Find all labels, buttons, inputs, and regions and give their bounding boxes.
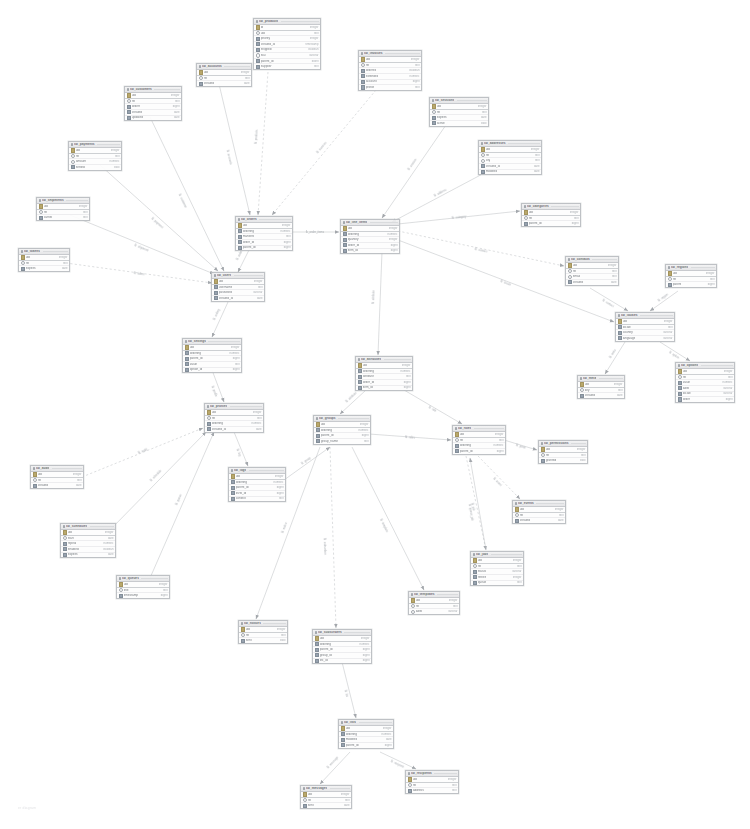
relationship-line[interactable] — [378, 252, 382, 355]
relationship-line[interactable] — [330, 447, 336, 628]
foreign-key-row[interactable]: sentdate — [301, 803, 351, 808]
foreign-key-row[interactable]: group_nametext — [314, 439, 370, 444]
relationship-line[interactable] — [392, 170, 490, 222]
foreign-key-row[interactable]: sentbool — [239, 638, 287, 643]
foreign-key-row[interactable]: createddate — [566, 280, 618, 285]
relationship-line[interactable] — [100, 165, 218, 271]
foreign-key-row[interactable]: createddate — [513, 518, 565, 523]
relationship-line[interactable] — [650, 291, 678, 311]
foreign-key-row[interactable]: parent_idbigint — [236, 246, 292, 251]
relationship-line[interactable] — [398, 231, 564, 266]
relationship-line[interactable] — [340, 390, 366, 414]
foreign-key-row[interactable]: list_idbigint — [313, 659, 371, 664]
relationship-line[interactable] — [342, 662, 356, 718]
foreign-key-row[interactable]: createddate — [31, 483, 83, 488]
entity-table[interactable]: tbl_localesuidintegerlocaletextcountryva… — [615, 312, 675, 342]
relationship-line[interactable] — [272, 90, 376, 215]
relationship-line[interactable] — [258, 72, 268, 215]
entity-table[interactable]: tbl_paymentsuidintegerreftextamountnumer… — [68, 141, 122, 171]
relationship-line[interactable] — [212, 302, 228, 337]
entity-table[interactable]: tbl_shipmentsuidintegerreftextcarriertex… — [36, 197, 90, 221]
entity-table[interactable]: tbl_groupsuidintegerorderingnumericparen… — [313, 415, 371, 445]
foreign-key-row[interactable]: parent_idbigint — [522, 221, 580, 226]
entity-table[interactable]: tbl_rolesuidintegerreftextorderingnumeri… — [452, 425, 506, 455]
relationship-line[interactable] — [238, 248, 250, 272]
relationship-line[interactable] — [466, 456, 486, 550]
entity-table[interactable]: tbl_optionsuidintegerreftextvaluenumeric… — [675, 362, 735, 403]
entity-table[interactable]: tbl_accountsuidintegerreftextcreateddate — [196, 63, 252, 87]
foreign-key-row[interactable]: settledbool — [69, 165, 121, 170]
relationship-line[interactable] — [110, 432, 206, 530]
entity-table[interactable]: tbl_invoicesuidintegerreftextorderedbool… — [358, 50, 422, 91]
foreign-key-row[interactable]: item_idbigint — [356, 386, 412, 391]
entity-table[interactable]: tbl_audituidintegerreftextcreateddate — [30, 465, 84, 489]
foreign-key-row[interactable]: created_atdate — [212, 296, 264, 301]
foreign-key-row[interactable]: createddate — [197, 81, 251, 86]
entity-table[interactable]: tbl_messagesuidintegerreftextsentdate — [300, 785, 352, 809]
foreign-key-row[interactable]: option_idbigint — [183, 368, 241, 373]
entity-table[interactable]: tbl_categoriesuidintegerreftextparent_id… — [521, 203, 581, 227]
relationship-line[interactable] — [70, 215, 214, 274]
relationship-line[interactable] — [404, 390, 462, 424]
entity-table[interactable]: tbl_ordersuidintegerorderingnumericmanif… — [235, 216, 293, 251]
entity-table[interactable]: tbl_recipientsuidintegerreftextaddresste… — [405, 770, 459, 794]
foreign-key-row[interactable]: updateddate — [125, 116, 181, 121]
entity-table[interactable]: tbl_templatesuidintegerreftextlabelvarch… — [408, 591, 460, 615]
entity-table[interactable]: tbl_queuesuidintegertitletexttimestampbi… — [116, 575, 170, 599]
foreign-key-row[interactable]: item_idbigint — [341, 249, 399, 254]
relationship-line[interactable] — [380, 752, 416, 769]
relationship-line[interactable] — [150, 117, 224, 271]
entity-table[interactable]: tbl_addressesuidintegerreftextcitytextcr… — [478, 140, 542, 175]
entity-table[interactable]: tbl_attributesuidintegerorderingnumerica… — [355, 356, 413, 391]
foreign-key-row[interactable]: expiresdate — [61, 553, 115, 558]
foreign-key-row[interactable]: parentbigint — [666, 282, 716, 287]
relationship-line[interactable] — [369, 434, 451, 440]
foreign-key-row[interactable]: orderbigint — [676, 397, 734, 402]
relationship-line[interactable] — [150, 432, 214, 578]
field-row[interactable]: labelvarchar — [409, 609, 459, 614]
entity-table[interactable]: tbl_schedulesuidintegerstartdaterepeatnu… — [60, 523, 116, 558]
entity-table[interactable]: tbl_logsuidintegerorderingnumericparent_… — [228, 467, 286, 502]
entity-table[interactable]: tbl_customersuidintegerreftextordersbigi… — [124, 86, 182, 121]
relationship-line[interactable] — [590, 288, 628, 311]
foreign-key-row[interactable]: expiresdate — [19, 266, 69, 271]
foreign-key-row[interactable]: created_atdate — [205, 427, 263, 432]
entity-table[interactable]: tbl_sessionsuidintegerreftextexpiresdate… — [429, 97, 489, 127]
entity-table[interactable]: tbl_metauidintegerkeytextcreateddate — [577, 375, 625, 399]
foreign-key-row[interactable]: addresstext — [406, 788, 458, 793]
relationship-line[interactable] — [660, 342, 690, 361]
foreign-key-row[interactable]: profiletext — [359, 85, 421, 90]
entity-table[interactable]: tbl_contactsuidintegerreftextemailtextcr… — [565, 256, 619, 286]
foreign-key-row[interactable]: modifieddate — [479, 170, 541, 175]
relationship-line[interactable] — [605, 342, 625, 374]
foreign-key-row[interactable]: createddate — [578, 393, 624, 398]
relationship-line[interactable] — [382, 122, 448, 218]
foreign-key-row[interactable]: queuetext — [471, 581, 523, 586]
relationship-line[interactable] — [212, 370, 224, 402]
relationship-line[interactable] — [478, 456, 520, 499]
foreign-key-row[interactable]: suppliertext — [254, 64, 320, 69]
relationship-line[interactable] — [82, 428, 203, 477]
foreign-key-row[interactable]: activebool — [430, 121, 488, 126]
entity-table[interactable]: tbl_usersuidintegerusernametextpasswordv… — [211, 272, 265, 302]
entity-table[interactable]: tbl_settingsuidintegerorderingnumericpar… — [182, 338, 242, 373]
entity-table[interactable]: tbl_line_itemsuidintegerorderingnumericq… — [340, 219, 400, 254]
entity-table[interactable]: tbl_eventsuidintegerreftextcreateddate — [512, 500, 566, 524]
relationship-line[interactable] — [219, 84, 250, 215]
foreign-key-row[interactable]: languagevarchar — [616, 336, 674, 341]
relationship-line[interactable] — [504, 440, 537, 450]
foreign-key-row[interactable]: timestampbigint — [117, 593, 169, 598]
entity-table[interactable]: tbl_regionsuidintegerreftextparentbigint — [665, 264, 717, 288]
relationship-line[interactable] — [470, 458, 486, 550]
foreign-key-row[interactable]: grantedbool — [539, 458, 587, 463]
entity-table[interactable]: tbl_productsidintegeruidtextpriorityinte… — [253, 18, 321, 70]
relationship-line[interactable] — [66, 263, 212, 283]
foreign-key-row[interactable]: contexttext — [229, 497, 285, 502]
entity-table[interactable]: tbl_tokensuidintegerreftextexpiresdate — [18, 248, 70, 272]
foreign-key-row[interactable]: parent_idbigint — [339, 743, 393, 748]
relationship-line[interactable] — [352, 447, 424, 590]
relationship-line[interactable] — [234, 432, 248, 466]
foreign-key-row[interactable]: parent_idbigint — [453, 449, 505, 454]
entity-table[interactable]: tbl_listsuidintegerorderingnumericmodifi… — [338, 719, 394, 749]
entity-table[interactable]: tbl_subscribersuidintegerorderingnumeric… — [312, 629, 372, 664]
